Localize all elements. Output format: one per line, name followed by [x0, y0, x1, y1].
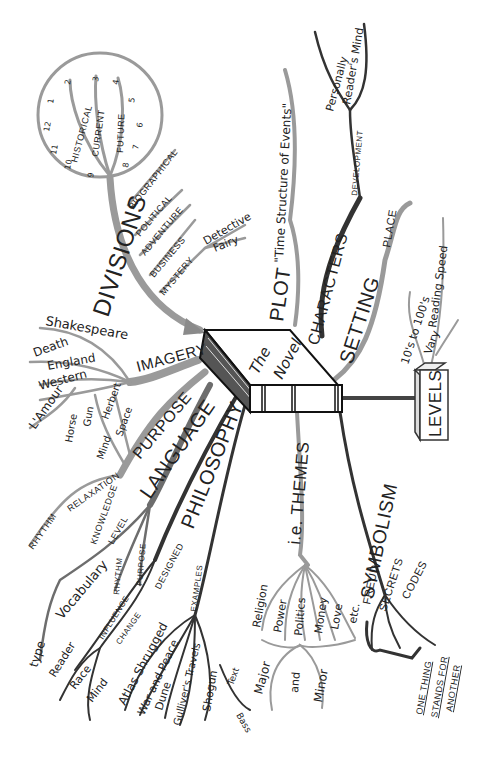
examples-list: Atlas Shrugged War and Peace Dune Gulliv… — [115, 620, 253, 734]
purpose-item: RHYTHM — [26, 511, 58, 551]
theme-item: etc. — [346, 602, 362, 625]
theme-item: Power — [271, 598, 290, 633]
shogun-sub-bass: Bass — [234, 711, 253, 735]
purpose-item: Mind — [95, 434, 114, 460]
svg-text:12: 12 — [42, 121, 53, 133]
svg-text:8: 8 — [121, 162, 131, 169]
svg-text:3: 3 — [91, 76, 101, 83]
purpose-item: Horse — [63, 413, 79, 444]
levels-item: Reading Speed — [426, 245, 450, 329]
shogun-sub-text: Text — [225, 666, 241, 688]
language-item: RHYTHM — [112, 557, 124, 595]
theme-item: Religion — [250, 583, 270, 628]
language-item: type — [27, 639, 49, 669]
example-item: Shogun — [200, 669, 220, 712]
symbolism-item: CODES — [399, 559, 429, 601]
svg-text:9: 9 — [86, 172, 96, 179]
mind-map: The Novel LEVELS DIVISIONS HISTORICAL CU… — [0, 0, 483, 757]
themes-label: i.e. THEMES — [285, 441, 313, 546]
divisions-label: DIVISIONS — [87, 192, 152, 320]
influence-item: Mind — [84, 676, 111, 705]
genre-list: BIOGRAPHICAL POLITICAL ADVENTURE BUSINES… — [127, 147, 254, 297]
plot-definition: "Time Structure of Events" — [272, 103, 294, 263]
levels-label: LEVELS — [426, 370, 445, 437]
svg-text:10: 10 — [63, 159, 74, 171]
svg-text:1: 1 — [46, 98, 56, 105]
era-future: FUTURE — [115, 113, 126, 153]
symbolism-note: ONE THING STANDS FOR ANOTHER — [414, 655, 462, 718]
theme-item: Politics — [292, 597, 308, 636]
book-spine — [250, 385, 342, 412]
theme-scale-and: and — [288, 672, 303, 694]
purpose-item: Gun — [81, 405, 95, 427]
levels-item: 10's to 100's — [398, 295, 432, 366]
plot-label: PLOT — [265, 266, 294, 323]
theme-scale-minor: Minor — [311, 668, 331, 704]
svg-text:11: 11 — [49, 144, 60, 156]
setting-label: SETTING — [335, 274, 384, 367]
purpose-item: Space — [114, 405, 135, 437]
svg-text:7: 7 — [131, 144, 141, 151]
divisions-arrowhead — [183, 318, 205, 335]
levels-item: Vary — [422, 328, 443, 356]
svg-text:6: 6 — [135, 122, 145, 129]
theme-item: Love — [328, 602, 345, 630]
svg-text:5: 5 — [127, 97, 137, 104]
levels-box[interactable]: LEVELS — [415, 363, 448, 440]
